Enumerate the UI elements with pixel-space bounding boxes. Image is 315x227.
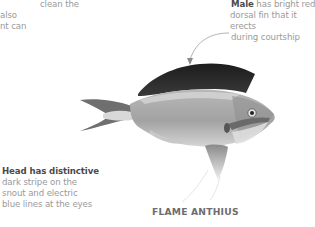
pelvic-fin: [205, 145, 228, 180]
leader-arrowhead: [187, 58, 193, 65]
species-title: FLAME ANTHIUS: [152, 206, 239, 217]
flame-anthias-illustration: [0, 0, 315, 227]
leader-line-male: [190, 33, 229, 60]
